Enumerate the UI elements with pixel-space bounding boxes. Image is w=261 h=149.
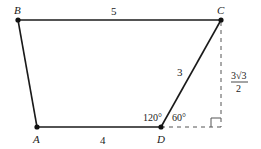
edge-cd-length-label: 3 — [177, 66, 183, 78]
height-numerator-label: 3√3 — [231, 70, 247, 81]
vertex-d-dot — [158, 124, 163, 129]
vertex-b-dot — [15, 17, 20, 22]
angle-60-label: 60° — [172, 112, 186, 123]
vertex-d-label: D — [156, 133, 165, 145]
edge-ab — [18, 20, 37, 127]
vertex-c-dot — [218, 17, 223, 22]
edge-cd — [161, 20, 221, 127]
right-angle-marker — [211, 118, 221, 127]
vertex-a-label: A — [32, 133, 40, 145]
vertex-a-dot — [34, 124, 39, 129]
angle-120-label: 120° — [143, 112, 162, 123]
height-denominator-label: 2 — [236, 83, 241, 94]
vertex-b-label: B — [14, 4, 21, 16]
vertex-c-label: C — [217, 4, 225, 16]
trapezoid-diagram: B C A D 5 3 4 120° 60° 3√3 2 — [0, 0, 261, 149]
edge-ad-length-label: 4 — [100, 134, 106, 146]
edge-bc-length-label: 5 — [111, 5, 117, 17]
